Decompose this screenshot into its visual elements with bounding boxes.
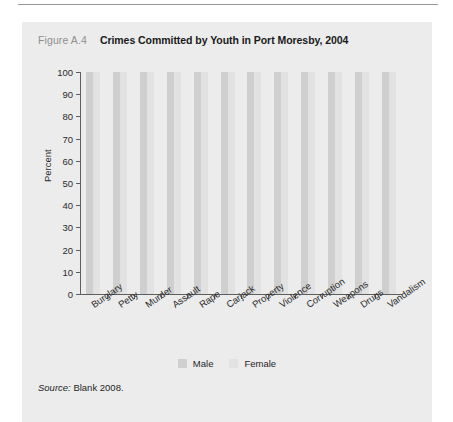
bar-female (120, 72, 127, 294)
y-axis-line (80, 72, 81, 295)
y-tick (76, 94, 80, 95)
bar-group (301, 72, 315, 294)
bar-male (86, 72, 93, 294)
bar-male (355, 72, 362, 294)
y-tick (76, 294, 80, 295)
y-tick (76, 250, 80, 251)
y-tick-label: 40 (62, 200, 73, 211)
y-tick-label: 60 (62, 155, 73, 166)
bar-group (221, 72, 235, 294)
figure-number: Figure A.4 (38, 34, 87, 46)
y-tick (76, 227, 80, 228)
y-tick-label: 70 (62, 133, 73, 144)
y-tick (76, 183, 80, 184)
bar-male (247, 72, 254, 294)
legend-swatch-male-icon (178, 359, 187, 368)
bar-female (335, 72, 342, 294)
chart-plot-area: 0102030405060708090100 (80, 72, 402, 295)
y-tick (76, 161, 80, 162)
bar-male (301, 72, 308, 294)
bar-group (247, 72, 261, 294)
y-tick (76, 205, 80, 206)
legend-item-male: Male (178, 358, 214, 369)
bar-group (382, 72, 396, 294)
figure-caption: Figure A.4Crimes Committed by Youth in P… (38, 34, 348, 46)
bar-male (194, 72, 201, 294)
bar-female (147, 72, 154, 294)
bar-group (113, 72, 127, 294)
y-tick-label: 50 (62, 178, 73, 189)
source-text: Blank 2008. (73, 382, 123, 393)
legend-item-female: Female (229, 358, 276, 369)
y-tick-label: 30 (62, 222, 73, 233)
figure-panel: Figure A.4Crimes Committed by Youth in P… (22, 22, 432, 422)
bar-group (86, 72, 100, 294)
bar-male (167, 72, 174, 294)
y-tick-label: 0 (68, 289, 73, 300)
bar-female (174, 72, 181, 294)
y-tick (76, 72, 80, 73)
y-tick-label: 80 (62, 111, 73, 122)
bar-female (389, 72, 396, 294)
y-axis-title: Percent (42, 149, 53, 182)
bar-group (140, 72, 154, 294)
y-tick (76, 139, 80, 140)
chart-legend: Male Female (22, 358, 432, 369)
bar-group (355, 72, 369, 294)
bar-male (140, 72, 147, 294)
bar-male (113, 72, 120, 294)
bar-female (308, 72, 315, 294)
figure-title: Crimes Committed by Youth in Port Moresb… (100, 34, 349, 46)
bar-male (382, 72, 389, 294)
y-tick-label: 10 (62, 266, 73, 277)
legend-swatch-female-icon (229, 359, 238, 368)
y-tick-label: 20 (62, 244, 73, 255)
bar-group (167, 72, 181, 294)
legend-label-male: Male (193, 358, 214, 369)
y-tick-label: 100 (57, 67, 73, 78)
y-tick-label: 90 (62, 89, 73, 100)
bar-male (274, 72, 281, 294)
bar-female (201, 72, 208, 294)
bar-female (362, 72, 369, 294)
bar-female (93, 72, 100, 294)
bar-group (328, 72, 342, 294)
y-tick (76, 272, 80, 273)
bar-female (254, 72, 261, 294)
bar-female (281, 72, 288, 294)
y-tick (76, 116, 80, 117)
bar-male (221, 72, 228, 294)
bar-group (274, 72, 288, 294)
source-note: Source: Blank 2008. (38, 382, 124, 393)
legend-label-female: Female (244, 358, 276, 369)
source-prefix: Source: (38, 382, 71, 393)
bar-female (228, 72, 235, 294)
page-top-rule (18, 4, 438, 5)
bar-male (328, 72, 335, 294)
bar-group (194, 72, 208, 294)
